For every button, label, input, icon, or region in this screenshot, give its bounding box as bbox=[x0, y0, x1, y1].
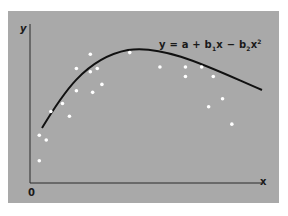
x-axis-label: x bbox=[260, 176, 266, 187]
data-point bbox=[95, 67, 99, 71]
data-point bbox=[100, 83, 104, 87]
eq-equals: = bbox=[166, 39, 182, 50]
data-point bbox=[89, 70, 93, 74]
fitted-curve bbox=[42, 49, 262, 128]
data-point bbox=[68, 114, 72, 118]
data-point bbox=[37, 159, 41, 163]
data-point bbox=[207, 105, 211, 109]
data-point bbox=[184, 65, 188, 69]
data-point bbox=[75, 89, 79, 93]
data-point bbox=[230, 122, 234, 126]
eq-b1: b bbox=[205, 39, 212, 50]
data-point bbox=[89, 52, 93, 56]
data-point bbox=[128, 51, 132, 55]
origin-label: 0 bbox=[28, 187, 35, 198]
data-point bbox=[75, 67, 79, 71]
data-point bbox=[91, 91, 95, 95]
data-point bbox=[200, 65, 204, 69]
data-point bbox=[37, 134, 41, 138]
eq-a: a bbox=[182, 39, 189, 50]
chart-svg bbox=[0, 0, 288, 216]
data-point bbox=[211, 75, 215, 79]
data-point bbox=[184, 75, 188, 79]
data-point bbox=[158, 65, 162, 69]
eq-plus: + bbox=[189, 39, 205, 50]
data-point bbox=[49, 110, 53, 114]
eq-x2-sup: 2 bbox=[257, 38, 261, 45]
data-point bbox=[221, 97, 225, 101]
eq-x1: x bbox=[216, 39, 223, 50]
eq-minus: − bbox=[223, 39, 239, 50]
eq-y: y bbox=[159, 39, 166, 50]
equation-annotation: y = a + b1x − b2x2 bbox=[159, 38, 262, 52]
data-point bbox=[61, 102, 65, 106]
y-axis-label: y bbox=[20, 23, 27, 34]
data-points bbox=[37, 51, 233, 163]
data-point bbox=[44, 138, 48, 142]
